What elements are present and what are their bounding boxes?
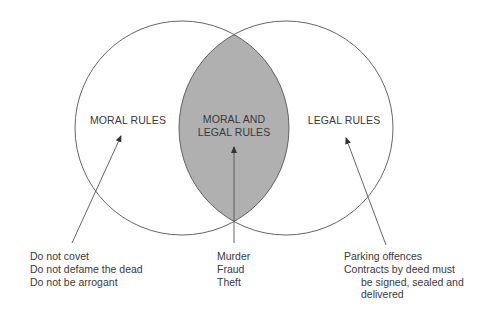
intersection-label-line1: MORAL AND	[184, 113, 284, 126]
list-item: Do not covet	[30, 250, 143, 263]
list-item: Contracts by deed must	[344, 263, 464, 276]
list-item: delivered	[344, 288, 464, 301]
moral-rules-label: MORAL RULES	[78, 114, 178, 127]
list-item: Parking offences	[344, 250, 464, 263]
moral-rules-arrow	[72, 136, 121, 243]
moral-examples-list: Do not covet Do not defame the dead Do n…	[30, 250, 143, 288]
intersection-label-line2: LEGAL RULES	[184, 126, 284, 139]
list-item: Theft	[217, 276, 250, 289]
intersection-examples-list: Murder Fraud Theft	[217, 250, 250, 288]
intersection-label: MORAL AND LEGAL RULES	[184, 113, 284, 139]
legal-rules-arrow	[346, 138, 386, 245]
list-item: Fraud	[217, 263, 250, 276]
list-item: Do not defame the dead	[30, 263, 143, 276]
list-item: be signed, sealed and	[344, 276, 464, 289]
list-item: Murder	[217, 250, 250, 263]
legal-examples-list: Parking offences Contracts by deed must …	[344, 250, 464, 301]
list-item: Do not be arrogant	[30, 276, 143, 289]
legal-rules-label: LEGAL RULES	[294, 114, 394, 127]
